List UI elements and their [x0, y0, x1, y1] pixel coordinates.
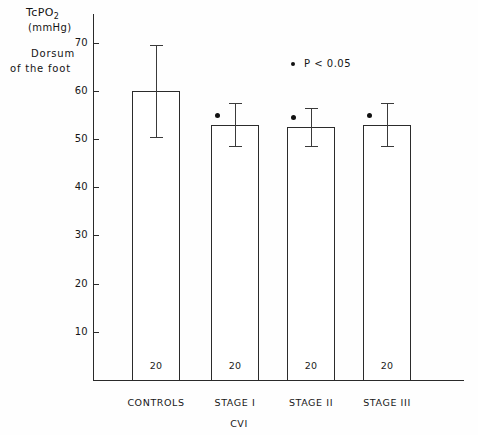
y-tick-mark	[94, 187, 99, 188]
y-tick-mark	[94, 139, 99, 140]
error-bar-cap-top	[381, 103, 394, 104]
y-tick-mark	[94, 284, 99, 285]
error-bar-line	[156, 45, 157, 137]
y-tick-label: 70	[62, 37, 88, 48]
bar-sample-size-label: 20	[287, 360, 335, 371]
significance-dot-icon	[291, 62, 295, 66]
y-tick-label: 20	[62, 278, 88, 289]
y-tick-label: 10	[62, 326, 88, 337]
x-axis-group-label: CVI	[0, 418, 478, 429]
x-axis-line	[93, 380, 464, 381]
y-tick-label: 40	[62, 181, 88, 192]
legend: P < 0.05	[291, 58, 351, 69]
bar-stage-ii	[287, 127, 335, 380]
error-bar-cap-top	[150, 45, 163, 46]
y-axis-title-subscript: 2	[54, 12, 60, 21]
bar-stage-i	[211, 125, 259, 380]
error-bar-cap-bottom	[381, 146, 394, 147]
y-axis-title: TcPO2	[26, 6, 59, 21]
error-bar-cap-bottom	[150, 137, 163, 138]
error-bar-line	[387, 103, 388, 146]
error-bar-cap-top	[305, 108, 318, 109]
y-tick-mark	[94, 235, 99, 236]
error-bar-cap-bottom	[305, 146, 318, 147]
error-bar-cap-bottom	[229, 146, 242, 147]
significance-dot-icon	[367, 113, 372, 118]
significance-dot-icon	[215, 113, 220, 118]
error-bar-line	[235, 103, 236, 146]
legend-label: P < 0.05	[304, 58, 351, 69]
bar-stage-iii	[363, 125, 411, 380]
y-tick-mark	[94, 91, 99, 92]
bar-sample-size-label: 20	[211, 360, 259, 371]
y-tick-label: 30	[62, 229, 88, 240]
y-axis-caption-line1: Dorsum	[31, 48, 75, 59]
y-axis-line	[93, 14, 94, 380]
y-tick-label: 50	[62, 133, 88, 144]
y-axis-title-text: TcPO	[26, 6, 54, 19]
error-bar-cap-top	[229, 103, 242, 104]
y-tick-mark	[94, 332, 99, 333]
y-axis-units: (mmHg)	[28, 22, 72, 33]
y-tick-label: 60	[62, 85, 88, 96]
bar-sample-size-label: 20	[132, 360, 180, 371]
x-category-label: STAGE III	[337, 397, 437, 408]
y-tick-mark	[94, 43, 99, 44]
significance-dot-icon	[291, 115, 296, 120]
chart-figure: TcPO2 (mmHg) Dorsum of the foot 70605040…	[0, 0, 478, 435]
error-bar-line	[311, 108, 312, 147]
y-axis-caption-line2: of the foot	[10, 63, 71, 74]
bar-sample-size-label: 20	[363, 360, 411, 371]
